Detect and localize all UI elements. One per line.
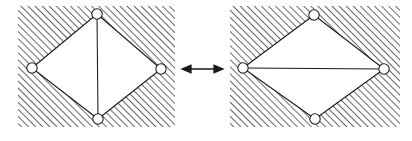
edge-flip-figure <box>0 0 412 141</box>
node-bottom <box>310 114 320 124</box>
node-left <box>238 63 248 73</box>
node-top <box>309 10 319 20</box>
diagram-canvas <box>0 0 412 141</box>
node-right <box>379 64 389 74</box>
node-top <box>92 9 102 19</box>
node-left <box>27 63 37 73</box>
left-configuration <box>18 6 175 127</box>
node-bottom <box>93 114 103 124</box>
node-right <box>156 64 166 74</box>
right-configuration <box>230 6 400 127</box>
